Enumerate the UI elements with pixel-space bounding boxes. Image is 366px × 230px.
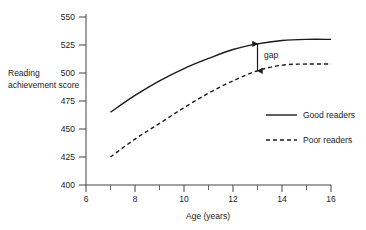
chart-canvas: 550 525 500 475 450 425 400 6 8 — [0, 0, 366, 230]
x-axis-title: Age (years) — [186, 211, 230, 221]
series-line-good-readers — [111, 39, 332, 112]
y-tick-label-475: 475 — [61, 96, 75, 106]
reading-achievement-chart: Reading achievement score 550 525 500 47… — [0, 0, 366, 230]
legend-label-good-readers: Good readers — [303, 110, 355, 120]
y-tick-label-550: 550 — [61, 12, 75, 22]
gap-annotation-label: gap — [264, 50, 278, 60]
chart-legend: Good readers Poor readers — [266, 110, 355, 145]
x-tick-label-12: 12 — [228, 194, 238, 204]
x-tick-label-6: 6 — [84, 194, 89, 204]
x-tick-label-10: 10 — [179, 194, 189, 204]
y-tick-label-400: 400 — [61, 180, 75, 190]
y-axis-ticks — [79, 17, 86, 185]
x-axis-tick-labels: 6 8 10 12 14 16 — [84, 194, 336, 204]
x-tick-label-8: 8 — [133, 194, 138, 204]
x-tick-label-16: 16 — [326, 194, 336, 204]
series-line-poor-readers — [111, 64, 332, 157]
y-axis-tick-labels: 550 525 500 475 450 425 400 — [61, 12, 75, 190]
y-tick-label-450: 450 — [61, 124, 75, 134]
y-tick-label-525: 525 — [61, 40, 75, 50]
y-tick-label-425: 425 — [61, 152, 75, 162]
x-axis-minor-ticks — [111, 185, 307, 190]
y-tick-label-500: 500 — [61, 68, 75, 78]
legend-item-poor-readers: Poor readers — [266, 135, 352, 145]
legend-item-good-readers: Good readers — [266, 110, 355, 120]
legend-label-poor-readers: Poor readers — [303, 135, 352, 145]
x-tick-label-14: 14 — [277, 194, 287, 204]
